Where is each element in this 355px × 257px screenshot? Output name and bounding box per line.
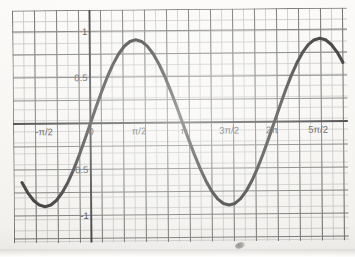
- y-tick-label: -0.5: [72, 165, 88, 175]
- y-axis-labels: 1 0.5 -0.5 -1: [0, 0, 354, 2]
- x-tick-label: 0: [88, 127, 93, 137]
- x-tick-label: 2π: [266, 125, 278, 135]
- y-tick-label: -1: [80, 211, 89, 221]
- y-tick-label: 1: [82, 27, 87, 37]
- graph-sheet: -π/2 0 π/2 π 3π/2 2π 5π/2 1 0.5 -0.5 -1: [0, 0, 355, 257]
- y-tick-label: 0.5: [74, 73, 87, 83]
- x-tick-label: π/2: [132, 126, 147, 136]
- sine-curve: [21, 38, 344, 207]
- x-tick-label: -π/2: [35, 127, 53, 137]
- x-tick-label: π: [181, 126, 188, 136]
- x-axis-labels: -π/2 0 π/2 π 3π/2 2π 5π/2: [0, 0, 354, 2]
- page-edge: [0, 249, 355, 257]
- x-tick-label: 3π/2: [219, 125, 239, 135]
- x-tick-label: 5π/2: [308, 125, 328, 135]
- graph-image: -π/2 0 π/2 π 3π/2 2π 5π/2 1 0.5 -0.5 -1: [0, 0, 355, 257]
